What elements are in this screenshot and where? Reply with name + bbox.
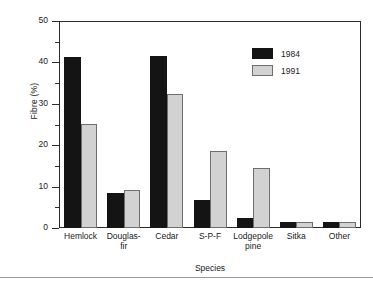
bar [253,168,270,228]
y-tick-minor [55,83,59,84]
bar [150,56,167,228]
y-tick-label: 10 [22,182,48,191]
y-tick-label: 30 [22,99,48,108]
x-category-label-line: pine [232,241,275,251]
legend-swatch-1991 [252,65,273,76]
y-tick-major [52,21,59,22]
y-tick-major [52,228,59,229]
legend-label-1984: 1984 [281,49,300,59]
bottom-divider [0,277,373,278]
x-category-label-line: Cedar [145,231,188,241]
y-tick-minor [55,166,59,167]
legend: 1984 1991 [252,45,300,79]
x-category-label-line: fir [102,241,145,251]
bar [124,190,141,228]
bar [237,218,254,228]
y-tick-major [52,104,59,105]
bar [323,222,340,228]
x-category-label: Douglas-fir [102,231,145,251]
y-tick-minor [55,42,59,43]
y-tick-major [52,145,59,146]
x-category-label: Other [318,231,361,241]
x-category-label-line: S-P-F [188,231,231,241]
x-category-label-line: Douglas- [102,231,145,241]
bar [167,94,184,228]
y-tick-major [52,187,59,188]
x-axis-label: Species [59,263,361,273]
legend-item: 1991 [252,62,300,79]
y-tick-minor [55,207,59,208]
x-category-label: Cedar [145,231,188,241]
bar [194,200,211,228]
x-category-label: S-P-F [188,231,231,241]
y-tick-major [52,62,59,63]
y-tick-label: 20 [22,140,48,149]
x-category-label-line: Hemlock [59,231,102,241]
y-tick-label: 40 [22,57,48,66]
x-category-label: Hemlock [59,231,102,241]
bar [64,57,81,228]
x-category-label-line: Lodgepole [232,231,275,241]
bar [280,222,297,228]
x-category-label-line: Other [318,231,361,241]
x-category-label: Lodgepolepine [232,231,275,251]
bar [107,193,124,228]
x-category-label: Sitka [275,231,318,241]
bar [339,222,356,228]
bar [296,222,313,228]
legend-label-1991: 1991 [281,66,300,76]
y-tick-label: 50 [22,16,48,25]
y-tick-minor [55,125,59,126]
legend-swatch-1984 [252,48,273,59]
x-category-label-line: Sitka [275,231,318,241]
y-tick-label: 0 [22,223,48,232]
bar [81,124,98,228]
legend-item: 1984 [252,45,300,62]
figure: Fibre (%) 01020304050 HemlockDouglas-fir… [0,0,373,286]
bar [210,151,227,228]
